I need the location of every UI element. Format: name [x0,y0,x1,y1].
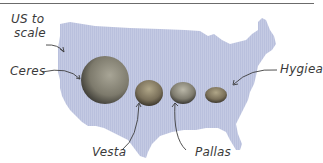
vesta-label: Vesta [92,145,126,159]
us-to-scale-line2: scale [11,26,46,40]
asteroid-vesta [135,80,163,106]
asteroid-pallas [170,82,196,104]
hygiea-label: Hygiea [280,62,323,76]
ceres-label: Ceres [10,64,45,78]
asteroid-hygiea [205,87,227,103]
us-to-scale-label: US to scale [11,12,46,40]
us-to-scale-line1: US to [11,12,46,26]
asteroid-ceres [81,56,129,104]
pallas-label: Pallas [195,145,231,159]
